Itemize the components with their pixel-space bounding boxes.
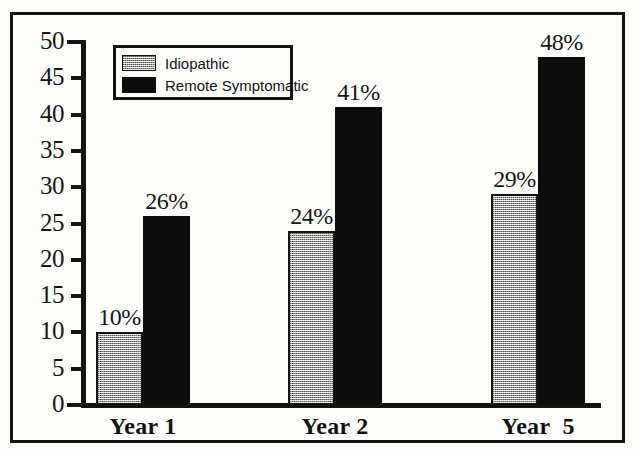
y-axis-tick-30	[71, 185, 83, 189]
bar-year-5-remote-symptomatic	[538, 57, 585, 405]
y-axis-tick-label-text: 45	[22, 64, 64, 89]
y-axis-tick-25	[71, 222, 83, 226]
legend-swatch-icon-idiopathic	[122, 55, 156, 71]
y-axis-tick-15	[71, 294, 83, 298]
y-axis-tick-45	[71, 76, 83, 80]
y-axis-tick-label-30: 30	[18, 173, 64, 199]
y-axis-tick-10	[71, 330, 83, 334]
y-axis-tick-label-35: 35	[18, 137, 64, 163]
bar-value-label-year-2-remote-symptomatic: 41%	[327, 80, 390, 104]
chart-page: 05101520253035404550 10%26%24%41%29%48% …	[0, 0, 637, 456]
y-axis-tick-label-50: 50	[18, 28, 64, 54]
legend-label-remote-symptomatic: Remote Symptomatic	[165, 77, 308, 94]
y-axis-tick-label-text: 10	[22, 318, 64, 343]
y-axis-tick-label-25: 25	[18, 210, 64, 236]
y-axis-tick-label-45: 45	[18, 64, 64, 90]
plot-area: 05101520253035404550 10%26%24%41%29%48% …	[0, 0, 637, 456]
y-axis-tick-label-40: 40	[18, 101, 64, 127]
bar-year-1-idiopathic	[96, 332, 143, 405]
y-axis-tick-label-15: 15	[18, 282, 64, 308]
y-axis-tick-label-text: 35	[22, 137, 64, 162]
x-axis-category-label-2: Year 2	[262, 412, 408, 440]
bar-value-label-year-5-idiopathic: 29%	[483, 167, 546, 191]
chart-legend: Idiopathic Remote Symptomatic	[113, 45, 293, 100]
bar-year-1-remote-symptomatic	[143, 216, 190, 405]
y-axis-tick-5	[71, 367, 83, 371]
y-axis-tick-label-text: 5	[22, 355, 64, 380]
bar-year-5-idiopathic	[491, 194, 538, 405]
legend-item-remote-symptomatic: Remote Symptomatic	[122, 74, 285, 96]
y-axis-tick-label-text: 50	[22, 28, 64, 53]
legend-label-idiopathic: Idiopathic	[165, 55, 229, 72]
bar-year-2-remote-symptomatic	[335, 107, 382, 405]
y-axis-tick-label-text: 40	[22, 101, 64, 126]
y-axis-tick-label-text: 15	[22, 282, 64, 307]
y-axis-tick-label-text: 20	[22, 246, 64, 271]
bar-value-label-year-5-remote-symptomatic: 48%	[530, 30, 593, 54]
bar-value-label-year-2-idiopathic: 24%	[280, 204, 343, 228]
y-axis-tick-label-text: 0	[22, 391, 64, 416]
y-axis-tick-label-5: 5	[18, 355, 64, 381]
y-axis-tick-40	[71, 113, 83, 117]
y-axis-tick-50	[67, 40, 86, 44]
x-axis-category-label-1: Year 1	[70, 412, 216, 440]
y-axis-tick-35	[71, 149, 83, 153]
x-axis-category-label-3: Year 5	[465, 412, 611, 440]
y-axis-tick-0	[67, 403, 86, 407]
y-axis-tick-label-text: 25	[22, 210, 64, 235]
legend-swatch-icon-remote-symptomatic	[122, 77, 156, 93]
bar-value-label-year-1-idiopathic: 10%	[88, 305, 151, 329]
y-axis-tick-label-20: 20	[18, 246, 64, 272]
y-axis-tick-label-text: 30	[22, 173, 64, 198]
bar-year-2-idiopathic	[288, 231, 335, 405]
y-axis-tick-label-0: 0	[18, 391, 64, 417]
bar-value-label-year-1-remote-symptomatic: 26%	[135, 189, 198, 213]
y-axis-tick-20	[71, 258, 83, 262]
y-axis-tick-label-10: 10	[18, 318, 64, 344]
legend-item-idiopathic: Idiopathic	[122, 52, 285, 74]
